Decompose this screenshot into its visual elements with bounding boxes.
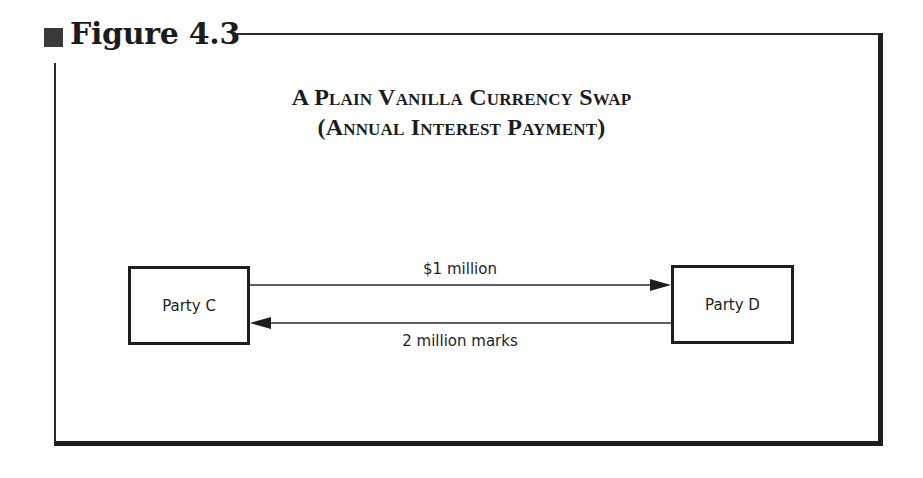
flow-label-marks: 2 million marks: [310, 332, 610, 350]
flow-arrows: [0, 0, 923, 478]
flow-label-dollars: $1 million: [310, 260, 610, 278]
arrow-left-icon: [250, 317, 671, 329]
arrow-right-icon: [250, 279, 671, 291]
